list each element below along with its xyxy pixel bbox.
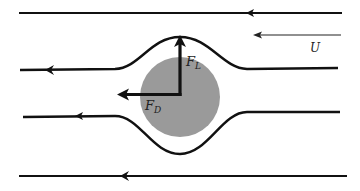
streamline-bottom (19, 171, 347, 181)
streamline-top (19, 9, 342, 17)
lift-force-label: FL (185, 54, 201, 71)
flow-diagram: U FL FD (0, 0, 360, 191)
free-stream-label: U (310, 41, 321, 55)
free-stream-arrow (253, 32, 341, 39)
